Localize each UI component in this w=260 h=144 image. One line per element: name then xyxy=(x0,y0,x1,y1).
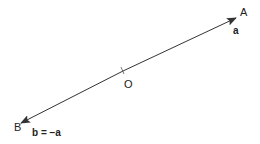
point-label-o: O xyxy=(124,79,133,90)
vector-lines xyxy=(0,0,260,144)
point-label-b: B xyxy=(14,122,21,133)
vector-diagram: A a O B b = −a xyxy=(0,0,260,144)
point-label-a: A xyxy=(240,7,247,18)
vector-label-b: b = −a xyxy=(32,128,61,138)
vector-label-a: a xyxy=(233,26,239,36)
vector-a-line xyxy=(123,18,236,71)
vector-b-line xyxy=(21,71,123,123)
